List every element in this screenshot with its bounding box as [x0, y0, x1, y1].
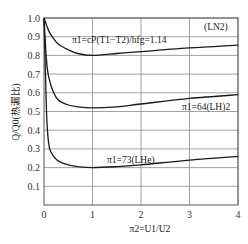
x-tick: 4: [236, 209, 241, 220]
ln2-annotation: π1=cP(T1−T2)/hfg=1.14: [72, 35, 167, 46]
x-tick: 1: [90, 209, 95, 220]
y-tick: 0.1: [28, 181, 41, 192]
y-tick: 1.0: [28, 13, 41, 24]
y-axis-label: Q/Q0(热漏比): [10, 83, 22, 140]
y-tick: 0.8: [28, 50, 41, 61]
y-tick: 0.4: [28, 125, 41, 136]
y-tick: 0.6: [28, 87, 41, 98]
x-axis-label: π2=U1/U2: [130, 224, 171, 234]
y-tick-labels: 0.10.20.30.40.50.60.70.80.91.0: [28, 13, 41, 192]
lhe-annotation: π1=73(LHe): [107, 155, 155, 166]
y-tick: 0.3: [28, 143, 41, 154]
y-tick: 0.9: [28, 31, 41, 42]
x-tick-labels: 01234: [42, 209, 241, 220]
ln2-end-label: (LN2): [204, 22, 228, 33]
heat-leak-ratio-chart: 0.10.20.30.40.50.60.70.80.91.0 01234 π1=…: [0, 0, 248, 244]
y-tick: 0.5: [28, 106, 41, 117]
lh2-annotation: π1=64(LH)2: [182, 102, 230, 113]
x-tick: 3: [187, 209, 192, 220]
y-tick: 0.2: [28, 162, 41, 173]
y-tick: 0.7: [28, 69, 41, 80]
x-tick: 2: [139, 209, 144, 220]
x-tick: 0: [42, 209, 47, 220]
